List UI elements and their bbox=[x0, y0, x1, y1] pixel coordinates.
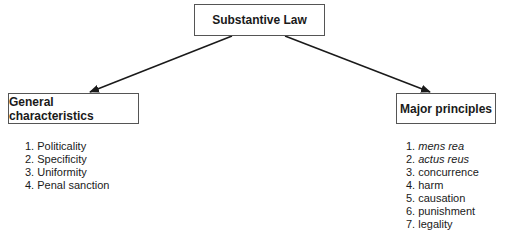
list-item: 3. Uniformity bbox=[25, 166, 109, 179]
substantive-law-box: Substantive Law bbox=[194, 4, 325, 36]
list-item: 7. legality bbox=[406, 218, 479, 231]
list-item: 2. actus reus bbox=[406, 153, 479, 166]
list-item: 2. Specificity bbox=[25, 153, 109, 166]
major-principles-box: Major principles bbox=[396, 93, 496, 124]
list-item: 5. causation bbox=[406, 192, 479, 205]
arrow-to-major-principles bbox=[285, 36, 430, 92]
substantive-law-label: Substantive Law bbox=[212, 13, 307, 27]
major-principles-list: 1. mens rea 2. actus reus 3. concurrence… bbox=[406, 140, 479, 231]
list-item: 4. Penal sanction bbox=[25, 179, 109, 192]
list-item: 1. mens rea bbox=[406, 140, 479, 153]
list-item: 1. Politicality bbox=[25, 140, 109, 153]
arrow-to-general-characteristics bbox=[90, 36, 232, 92]
general-characteristics-label: General characteristics bbox=[9, 95, 138, 123]
list-item: 3. concurrence bbox=[406, 166, 479, 179]
general-characteristics-box: General characteristics bbox=[8, 93, 139, 124]
list-item: 4. harm bbox=[406, 179, 479, 192]
list-item: 6. punishment bbox=[406, 205, 479, 218]
major-principles-label: Major principles bbox=[400, 102, 492, 116]
general-characteristics-list: 1. Politicality 2. Specificity 3. Unifor… bbox=[25, 140, 109, 192]
